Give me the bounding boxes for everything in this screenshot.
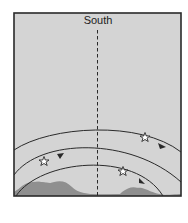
direction-label-south: South (78, 14, 118, 26)
star-path-diagram (0, 0, 188, 223)
